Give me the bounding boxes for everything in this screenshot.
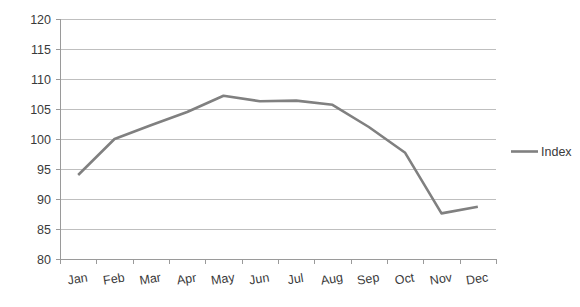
series-line-index <box>78 96 478 214</box>
y-tick-label: 85 <box>37 223 51 237</box>
x-tick-label-may: May <box>210 270 236 288</box>
x-tick-label-aug: Aug <box>320 270 344 287</box>
y-tick-label: 95 <box>37 163 51 177</box>
chart-legend: Index <box>511 145 572 159</box>
x-tick-label-jun: Jun <box>248 271 270 288</box>
x-tick-label-dec: Dec <box>465 270 489 287</box>
x-tick-label-sep: Sep <box>356 270 380 287</box>
y-tick-label: 115 <box>31 43 51 57</box>
x-tick-label-apr: Apr <box>176 271 197 288</box>
x-axis-tick-labels: JanFebMarAprMayJunJulAugSepOctNovDec <box>66 270 489 288</box>
y-tick-label: 80 <box>37 253 51 267</box>
chart-canvas: 80859095100105110115120 JanFebMarAprMayJ… <box>0 0 580 307</box>
y-axis-tick-labels: 80859095100105110115120 <box>30 13 51 267</box>
x-tick-label-jul: Jul <box>287 271 305 287</box>
y-tick-label: 110 <box>31 73 51 87</box>
x-tick-label-nov: Nov <box>429 270 454 287</box>
x-tick-label-oct: Oct <box>394 271 416 288</box>
y-tick-label: 105 <box>30 103 51 117</box>
line-chart: 80859095100105110115120 JanFebMarAprMayJ… <box>0 0 580 307</box>
x-tick-label-jan: Jan <box>66 271 88 288</box>
series-lines <box>78 96 478 214</box>
gridlines <box>60 20 496 230</box>
x-tick-label-mar: Mar <box>138 270 161 287</box>
legend-label-index: Index <box>541 145 572 159</box>
y-tick-label: 120 <box>30 13 51 27</box>
x-tick-label-feb: Feb <box>102 270 126 287</box>
y-tick-label: 100 <box>30 133 51 147</box>
y-tick-label: 90 <box>37 193 51 207</box>
y-axis-tick-marks <box>56 20 60 260</box>
